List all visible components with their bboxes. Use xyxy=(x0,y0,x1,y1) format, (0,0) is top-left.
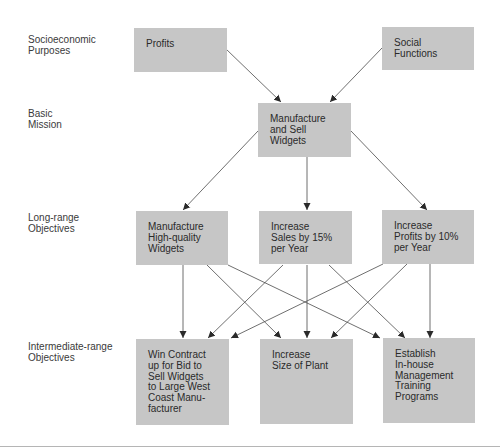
node-management-training: Establish In-house Management Training P… xyxy=(383,338,475,423)
edge-quality-to-plant xyxy=(207,265,281,338)
node-increase-sales: Increase Sales by 15% per Year xyxy=(259,211,352,264)
node-social-functions: Social Functions xyxy=(382,27,474,70)
node-basic-mission: Manufacture and Sell Widgets xyxy=(258,103,351,157)
edge-sales-to-contract xyxy=(208,265,283,338)
edge-profits-to-mission xyxy=(226,49,281,102)
node-increase-profits: Increase Profits by 10% per Year xyxy=(382,210,474,264)
edge-quality-to-training xyxy=(228,265,380,338)
edge-mission-to-lr-profits xyxy=(351,131,427,210)
edge-social-to-mission xyxy=(330,48,382,102)
edge-lr-profits-to-plant xyxy=(331,264,407,338)
node-increase-plant-size: Increase Size of Plant xyxy=(260,339,353,424)
node-manufacture-high-quality-widgets: Manufacture High-quality Widgets xyxy=(136,211,228,265)
bottom-rule xyxy=(0,446,500,447)
node-win-contract: Win Contract up for Bid to Sell Widgets … xyxy=(136,339,229,425)
node-profits: Profits xyxy=(134,28,227,72)
edge-sales-to-training xyxy=(329,265,405,338)
edge-mission-to-quality xyxy=(183,131,258,210)
